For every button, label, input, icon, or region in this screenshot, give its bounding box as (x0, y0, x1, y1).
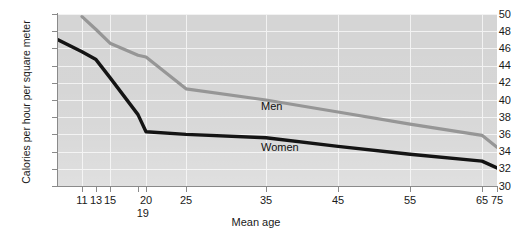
y-axis-tick-label: 46 (463, 43, 511, 54)
y-axis-line (57, 13, 58, 187)
x-axis-tick-label: 20 (132, 195, 160, 206)
y-axis-tick-label: 48 (463, 26, 511, 37)
series-annotation-women: Women (261, 141, 299, 153)
x-axis-tick-label: 75 (483, 195, 511, 206)
x-axis-tick (96, 187, 97, 192)
y-axis-tick-label: 44 (463, 60, 511, 71)
y-axis-tick (52, 48, 57, 49)
x-axis-tick (338, 187, 339, 192)
x-axis-tick (266, 187, 267, 192)
x-axis-sub-tick-label-19: 19 (129, 208, 157, 219)
x-axis-tick (410, 187, 411, 192)
x-axis-title: Mean age (196, 216, 316, 228)
x-axis-tick (497, 187, 498, 192)
series-annotation-men: Men (261, 100, 282, 112)
y-axis-tick-label: 40 (463, 95, 511, 106)
y-axis-tick (52, 169, 57, 170)
y-axis-tick-label: 32 (463, 163, 511, 174)
y-axis-tick-label: 38 (463, 112, 511, 123)
y-axis-tick (52, 31, 57, 32)
chart-figure: Men Women 5048464442403836343230 1113152… (0, 0, 511, 239)
x-axis-tick-label: 45 (324, 195, 352, 206)
y-axis-tick (52, 152, 57, 153)
y-axis-tick-label: 34 (463, 146, 511, 157)
x-axis-line (57, 186, 498, 187)
x-axis-tick (146, 187, 147, 192)
y-axis-tick (52, 117, 57, 118)
y-axis-tick (52, 14, 57, 15)
plot-area: Men Women (58, 14, 497, 186)
y-axis-title: Calories per hour per square meter (20, 12, 32, 192)
y-axis-tick-label: 30 (463, 181, 511, 192)
y-axis-tick-label: 50 (463, 9, 511, 20)
x-axis-tick-label: 35 (252, 195, 280, 206)
x-axis-tick-label: 15 (96, 195, 124, 206)
y-axis-tick (52, 83, 57, 84)
x-axis-tick-label: 55 (396, 195, 424, 206)
x-axis-tick (186, 187, 187, 192)
y-axis-tick (52, 134, 57, 135)
y-axis-tick-label: 42 (463, 77, 511, 88)
y-axis-tick (52, 66, 57, 67)
x-axis-tick (482, 187, 483, 192)
y-axis-tick (52, 100, 57, 101)
x-axis-tick (110, 187, 111, 192)
x-axis-tick (138, 187, 139, 192)
x-axis-tick-label: 25 (172, 195, 200, 206)
x-axis-tick (82, 187, 83, 192)
y-axis-tick (52, 186, 57, 187)
y-axis-tick-label: 36 (463, 129, 511, 140)
